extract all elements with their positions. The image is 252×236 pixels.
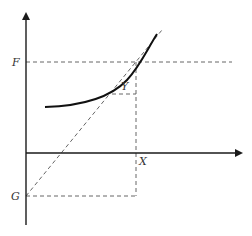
label-y: Y: [121, 80, 130, 93]
curve: [45, 34, 157, 107]
label-g: G: [11, 190, 20, 203]
diagonal-line: [26, 30, 162, 196]
diagram-canvas: F G X Y: [0, 0, 252, 236]
label-x: X: [138, 155, 148, 168]
label-f: F: [11, 56, 20, 69]
